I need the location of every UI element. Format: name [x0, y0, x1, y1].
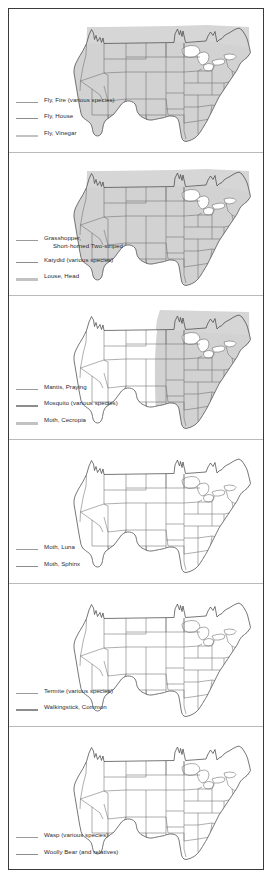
- legend-label-line2: Short-horned Two-striped: [44, 242, 123, 250]
- legend-line-swatch: [16, 706, 38, 714]
- legend-label: Woolly Bear (and relatives): [44, 848, 118, 856]
- legend-item: Wasp (various species): [16, 831, 166, 842]
- legend-item: Woolly Bear (and relatives): [16, 848, 166, 859]
- legend-line: [16, 405, 38, 406]
- map-panel-1: Fly, Fire (various species)Fly, HouseFly…: [9, 9, 263, 153]
- legend-item: Mantis, Praying: [16, 383, 166, 394]
- legend-item: Moth, Cecropia: [16, 416, 166, 427]
- legend-label-line1: Louse, Head: [44, 272, 79, 279]
- legend-label: Wasp (various species): [44, 831, 108, 839]
- legend-line-swatch: [16, 690, 38, 698]
- legend-label-line1: Wasp (various species): [44, 831, 108, 838]
- legend-label: Fly, House: [44, 112, 73, 120]
- legend-label: Walkingstick, Common: [44, 703, 107, 711]
- legend-line: [16, 549, 38, 550]
- legend-label-line1: Moth, Luna: [44, 543, 75, 550]
- legend-item: Fly, Vinegar: [16, 129, 166, 140]
- legend-label-line1: Moth, Sphinx: [44, 560, 80, 567]
- legend-line: [16, 422, 38, 425]
- legend-label-line1: Fly, House: [44, 112, 73, 119]
- legend-line-swatch: [16, 834, 38, 842]
- legend-line: [16, 693, 38, 694]
- legend-label: Fly, Fire (various species): [44, 96, 115, 104]
- map-panel-5: Termite (various species)Walkingstick, C…: [9, 584, 263, 728]
- legend-item: Termite (various species): [16, 687, 166, 698]
- legend-line-swatch: [16, 259, 38, 267]
- legend-label-line1: Fly, Vinegar: [44, 129, 77, 136]
- legend-label-line1: Fly, Fire (various species): [44, 96, 115, 103]
- legend-label-line1: Grasshopper,: [44, 234, 81, 241]
- legend-label-line1: Mosquito (various species): [44, 399, 118, 406]
- legend-line: [16, 240, 38, 241]
- map-panel-2: Grasshopper,Short-horned Two-stripedKaty…: [9, 153, 263, 297]
- legend-line-swatch: [16, 419, 38, 427]
- legend-line: [16, 854, 38, 855]
- map-legend-6: Wasp (various species)Woolly Bear (and r…: [16, 831, 166, 859]
- legend-item: Grasshopper,Short-horned Two-striped: [16, 234, 166, 250]
- page-root: Fly, Fire (various species)Fly, HouseFly…: [0, 0, 272, 878]
- legend-label: Termite (various species): [44, 687, 113, 695]
- legend-line-swatch: [16, 563, 38, 571]
- legend-label: Mosquito (various species): [44, 399, 118, 407]
- legend-item: Walkingstick, Common: [16, 703, 166, 714]
- legend-label: Katydid (various species): [44, 256, 113, 264]
- map-legend-5: Termite (various species)Walkingstick, C…: [16, 687, 166, 715]
- legend-label-line1: Termite (various species): [44, 687, 113, 694]
- legend-line: [16, 118, 38, 119]
- legend-line: [16, 389, 38, 390]
- legend-item: Moth, Luna: [16, 543, 166, 554]
- legend-label: Mantis, Praying: [44, 383, 87, 391]
- map-panel-6: Wasp (various species)Woolly Bear (and r…: [9, 727, 263, 871]
- legend-line-swatch: [16, 115, 38, 123]
- legend-item: Moth, Sphinx: [16, 560, 166, 571]
- map-panel-4: Moth, LunaMoth, Sphinx: [9, 440, 263, 584]
- legend-item: Louse, Head: [16, 272, 166, 283]
- legend-label-line1: Katydid (various species): [44, 256, 113, 263]
- legend-item: Katydid (various species): [16, 256, 166, 267]
- legend-label: Moth, Cecropia: [44, 416, 86, 424]
- map-legend-3: Mantis, PrayingMosquito (various species…: [16, 383, 166, 427]
- legend-label: Fly, Vinegar: [44, 129, 77, 137]
- legend-item: Fly, House: [16, 112, 166, 123]
- legend-label-line1: Woolly Bear (and relatives): [44, 848, 118, 855]
- legend-line: [16, 278, 38, 281]
- legend-line-swatch: [16, 237, 38, 245]
- legend-label-line1: Walkingstick, Common: [44, 703, 107, 710]
- map-panel-3: Mantis, PrayingMosquito (various species…: [9, 296, 263, 440]
- legend-label: Moth, Luna: [44, 543, 75, 551]
- legend-line: [16, 837, 38, 838]
- legend-line-swatch: [16, 546, 38, 554]
- legend-line: [16, 709, 38, 710]
- legend-line: [16, 102, 38, 103]
- legend-line-swatch: [16, 402, 38, 410]
- legend-label: Grasshopper,Short-horned Two-striped: [44, 234, 123, 250]
- legend-label: Moth, Sphinx: [44, 560, 80, 568]
- printed-frame: Fly, Fire (various species)Fly, HouseFly…: [8, 8, 264, 870]
- legend-line-swatch: [16, 99, 38, 107]
- legend-line-swatch: [16, 851, 38, 859]
- legend-line-swatch: [16, 275, 38, 283]
- legend-line: [16, 135, 38, 138]
- map-legend-4: Moth, LunaMoth, Sphinx: [16, 543, 166, 571]
- legend-line: [16, 566, 38, 567]
- legend-label-line1: Mantis, Praying: [44, 383, 87, 390]
- map-legend-1: Fly, Fire (various species)Fly, HouseFly…: [16, 96, 166, 140]
- map-legend-2: Grasshopper,Short-horned Two-stripedKaty…: [16, 234, 166, 283]
- legend-item: Mosquito (various species): [16, 399, 166, 410]
- legend-label-line1: Moth, Cecropia: [44, 416, 86, 423]
- legend-line-swatch: [16, 132, 38, 140]
- legend-line-swatch: [16, 386, 38, 394]
- legend-label: Louse, Head: [44, 272, 79, 280]
- legend-item: Fly, Fire (various species): [16, 96, 166, 107]
- legend-line: [16, 262, 38, 263]
